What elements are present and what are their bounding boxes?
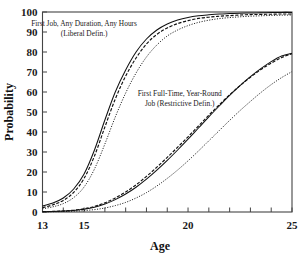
annotation-restrictive-label: First Full-Time, Year-RoundJob (Restrict…	[138, 89, 222, 108]
y-tick-label-100: 100	[21, 6, 38, 18]
x-tick-label-25: 25	[287, 219, 299, 231]
y-axis-ticks	[43, 12, 48, 212]
x-tick-label-20: 20	[183, 219, 195, 231]
y-tick-label-50: 50	[27, 106, 39, 118]
y-tick-label-20: 20	[27, 166, 39, 178]
curve-liberal-solid	[43, 12, 293, 206]
chart-figure: 13152025 0102030405060708090100 First Jo…	[0, 0, 303, 258]
curve-restrictive-dashed	[43, 54, 293, 212]
plot-frame	[43, 12, 293, 212]
x-axis-title: Age	[150, 239, 171, 253]
probability-vs-age-line-chart: 13152025 0102030405060708090100 First Jo…	[0, 0, 303, 258]
y-tick-label-60: 60	[27, 86, 39, 98]
y-axis-tick-labels: 0102030405060708090100	[21, 6, 38, 218]
curve-restrictive-solid	[43, 53, 293, 212]
x-tick-label-15: 15	[79, 219, 91, 231]
x-tick-label-13: 13	[37, 219, 49, 231]
y-tick-label-80: 80	[27, 46, 39, 58]
data-curves	[43, 12, 293, 211]
y-tick-label-30: 30	[27, 146, 39, 158]
y-tick-label-70: 70	[27, 66, 39, 78]
y-tick-label-0: 0	[32, 206, 38, 218]
series-annotations: First Job, Any Duration, Any Hours(Liber…	[31, 19, 222, 108]
curve-liberal-dotted	[43, 15, 293, 209]
restrictive-label-line1: First Full-Time, Year-Round	[138, 89, 222, 98]
liberal-label-line2: (Liberal Defin.)	[61, 29, 108, 38]
y-tick-label-40: 40	[27, 126, 39, 138]
x-axis-tick-labels: 13152025	[37, 219, 298, 231]
y-axis-title: Probability	[2, 83, 16, 141]
annotation-liberal-label: First Job, Any Duration, Any Hours(Liber…	[31, 19, 137, 38]
restrictive-label-line2: Job (Restrictive Defin.)	[145, 99, 215, 108]
curve-liberal-dashed	[43, 14, 293, 208]
y-tick-label-10: 10	[27, 186, 39, 198]
liberal-label-line1: First Job, Any Duration, Any Hours	[31, 19, 137, 28]
